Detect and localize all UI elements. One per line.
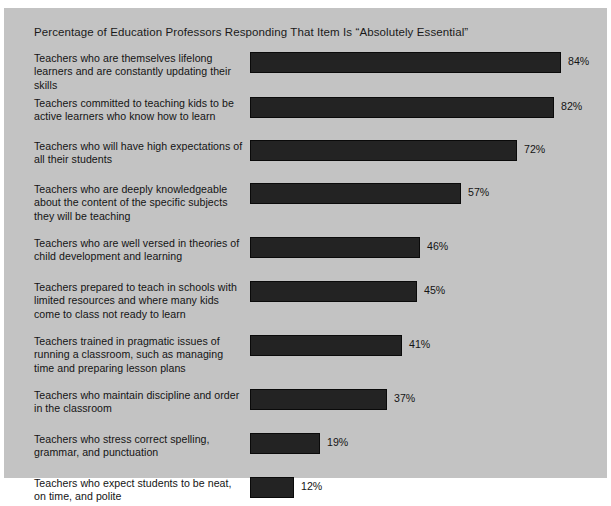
bar-fill [250, 183, 461, 204]
bar-category-label: Teachers who are themselves lifelong lea… [34, 52, 246, 92]
bar-row: Teachers who are deeply knowledgeable ab… [4, 183, 607, 237]
bar-value-label: 37% [394, 392, 415, 404]
bar-fill [250, 52, 561, 73]
bar-row: Teachers who expect students to be neat,… [4, 477, 607, 506]
bar-row: Teachers who are themselves lifelong lea… [4, 52, 607, 97]
chart-panel: Percentage of Education Professors Respo… [4, 8, 607, 478]
bar-fill [250, 477, 294, 498]
bar-value-label: 19% [327, 436, 348, 448]
bar-category-label: Teachers committed to teaching kids to b… [34, 97, 246, 124]
bar-fill [250, 140, 517, 161]
bar-row: Teachers prepared to teach in schools wi… [4, 281, 607, 335]
bar-category-label: Teachers who stress correct spelling, gr… [34, 433, 246, 460]
bar-value-label: 72% [524, 143, 545, 155]
bar-category-label: Teachers prepared to teach in schools wi… [34, 281, 246, 321]
bar-category-label: Teachers who are well versed in theories… [34, 237, 246, 264]
chart-title: Percentage of Education Professors Respo… [34, 26, 468, 38]
bar-row: Teachers trained in pragmatic issues of … [4, 335, 607, 389]
bar-row: Teachers who maintain discipline and ord… [4, 389, 607, 433]
bar-category-label: Teachers who are deeply knowledgeable ab… [34, 183, 246, 223]
bar-row: Teachers who stress correct spelling, gr… [4, 433, 607, 477]
bar-category-label: Teachers who expect students to be neat,… [34, 477, 246, 504]
bar-fill [250, 97, 554, 118]
bar-chart-plot-area: Teachers who are themselves lifelong lea… [4, 52, 607, 506]
bar-value-label: 41% [409, 338, 430, 350]
bar-row: Teachers who are well versed in theories… [4, 237, 607, 281]
bar-value-label: 12% [301, 480, 322, 492]
bar-category-label: Teachers who maintain discipline and ord… [34, 389, 246, 416]
bar-value-label: 82% [561, 100, 582, 112]
bar-category-label: Teachers trained in pragmatic issues of … [34, 335, 246, 375]
bar-fill [250, 433, 320, 454]
bar-fill [250, 335, 402, 356]
bar-row: Teachers committed to teaching kids to b… [4, 97, 607, 140]
bar-fill [250, 237, 420, 258]
bar-category-label: Teachers who will have high expectations… [34, 140, 246, 167]
bar-row: Teachers who will have high expectations… [4, 140, 607, 183]
bar-fill [250, 389, 387, 410]
bar-value-label: 45% [424, 284, 445, 296]
bar-value-label: 84% [568, 55, 589, 67]
bar-value-label: 57% [468, 186, 489, 198]
bar-value-label: 46% [427, 240, 448, 252]
bar-fill [250, 281, 417, 302]
